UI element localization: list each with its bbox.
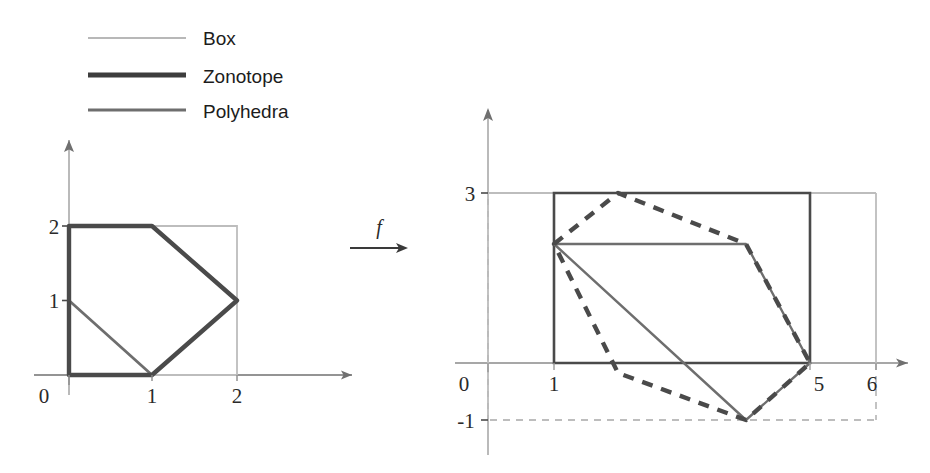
legend-item-box: Box — [88, 28, 236, 49]
right-xtick-label-0: 0 — [459, 372, 470, 396]
legend-label-polyhedra: Polyhedra — [203, 101, 289, 122]
right-xtick-label-5: 5 — [814, 372, 825, 396]
left-xtick-label-0: 0 — [39, 384, 50, 408]
left-axes — [34, 140, 352, 395]
right-xtick-label-6: 6 — [867, 372, 878, 396]
left-zonotope-outline — [69, 226, 237, 375]
right-zonotope-shape — [554, 193, 810, 420]
left-ytick-label-1: 1 — [49, 289, 60, 313]
legend-item-polyhedra: Polyhedra — [88, 101, 289, 122]
figure-canvas: Box Zonotope Polyhedra — [0, 0, 930, 473]
left-xtick-label-2: 2 — [232, 384, 243, 408]
right-ytick-label-neg1: -1 — [457, 409, 475, 433]
legend-item-zonotope: Zonotope — [88, 66, 283, 87]
left-box-shape — [69, 226, 237, 375]
right-polyhedra-outline — [554, 244, 810, 420]
left-box-outline — [69, 226, 237, 375]
left-xtick-label-1: 1 — [147, 384, 158, 408]
legend-label-zonotope: Zonotope — [203, 66, 283, 87]
legend-label-box: Box — [203, 28, 236, 49]
left-polyhedra-shape — [69, 226, 237, 375]
legend: Box Zonotope Polyhedra — [88, 28, 289, 122]
right-axes — [455, 108, 908, 455]
image-set-plot: 0 1 5 6 3 -1 — [455, 108, 908, 455]
right-ytick-label-3: 3 — [465, 182, 476, 206]
input-set-plot: 0 1 2 1 2 — [34, 140, 352, 408]
left-ytick-label-2: 2 — [49, 215, 60, 239]
mapping-arrow-group: f — [350, 216, 408, 253]
left-polyhedra-outline — [69, 226, 237, 375]
right-polyhedra-shape — [554, 244, 810, 420]
left-zonotope-shape — [69, 226, 237, 375]
right-xtick-label-1: 1 — [549, 372, 560, 396]
right-ticks: 0 1 5 6 3 -1 — [457, 182, 877, 433]
mapping-function-label: f — [376, 216, 384, 239]
right-zonotope-outline — [554, 193, 810, 420]
